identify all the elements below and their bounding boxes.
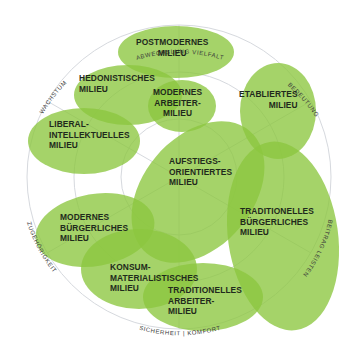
label-liberal-intellektuelles: LIBERAL-INTELLEKTUELLESMILIEU	[49, 119, 130, 151]
label-postmodernes: POSTMODERNESMILIEU	[136, 37, 208, 58]
label-traditionelles-arbeiter: TRADITIONELLESARBEITER-MILIEU	[168, 285, 242, 317]
label-hedonistisches: HEDONISTISCHESMILIEU	[79, 73, 155, 94]
label-etabliertes: ETABLIERTESMILIEU	[239, 89, 298, 110]
label-modernes-arbeiter: MODERNESARBEITER-MILIEU	[153, 87, 202, 119]
milieu-diagram: ABWECHSLUNG VIELFALT BEDEUTUNG BEITRAG L…	[0, 0, 354, 348]
label-modernes-buergerliches: MODERNESBÜRGERLICHESMILIEU	[60, 212, 128, 244]
label-traditionelles-buergerliches: TRADITIONELLESBÜRGERLICHESMILIEU	[240, 206, 314, 238]
ring-label-upper-left: WACHSTUM	[38, 79, 67, 115]
label-aufstiegsorientiertes: AUFSTIEGS-ORIENTIERTESMILIEU	[169, 156, 232, 188]
